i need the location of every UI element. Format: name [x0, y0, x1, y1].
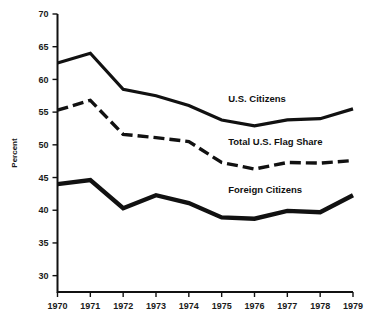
y-tick-label: 50: [38, 140, 48, 150]
y-tick-label: 45: [38, 173, 48, 183]
y-tick-label: 40: [38, 205, 48, 215]
chart-container: 3035404550556065701970197119721973197419…: [0, 0, 368, 325]
x-tick-label: 1975: [212, 301, 232, 311]
x-tick-label: 1970: [47, 301, 67, 311]
y-axis-title: Percent: [10, 138, 19, 168]
x-tick-label: 1973: [146, 301, 166, 311]
y-tick-label: 65: [38, 42, 48, 52]
x-tick-label: 1977: [277, 301, 297, 311]
series-line-total-u-s-flag-share: [58, 100, 354, 169]
x-tick-label: 1979: [343, 301, 363, 311]
x-tick-label: 1976: [244, 301, 264, 311]
y-tick-label: 70: [38, 9, 48, 19]
series-label-u-s-citizens: U.S. Citizens: [228, 93, 286, 104]
series-line-u-s-citizens: [58, 53, 354, 126]
y-tick-label: 55: [38, 107, 48, 117]
x-tick-label: 1971: [80, 301, 100, 311]
x-tick-label: 1972: [113, 301, 133, 311]
line-chart: 3035404550556065701970197119721973197419…: [0, 0, 368, 325]
x-tick-label: 1974: [179, 301, 199, 311]
series-line-foreign-citizens: [58, 180, 354, 219]
x-tick-label: 1978: [310, 301, 330, 311]
y-tick-label: 60: [38, 75, 48, 85]
y-tick-label: 30: [38, 271, 48, 281]
y-tick-label: 35: [38, 238, 48, 248]
series-label-foreign-citizens: Foreign Citizens: [228, 184, 302, 195]
series-label-total-u-s-flag-share: Total U.S. Flag Share: [228, 136, 322, 147]
